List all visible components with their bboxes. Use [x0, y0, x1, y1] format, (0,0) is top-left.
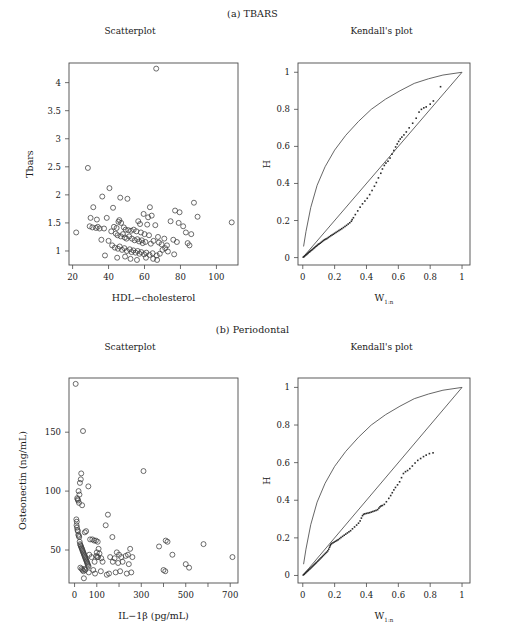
y-axis-title: H	[261, 476, 272, 484]
data-point	[126, 562, 131, 567]
data-point	[115, 255, 120, 260]
y-tick-label: 1	[285, 382, 290, 392]
data-point	[329, 546, 331, 548]
y-tick-label: 2.5	[47, 162, 61, 172]
x-axis-title: HDL−cholesterol	[112, 292, 196, 303]
data-point	[107, 186, 112, 191]
y-tick-label: 0	[285, 253, 290, 263]
plot-frame	[69, 63, 238, 265]
x-tick-label: 0.6	[392, 590, 406, 600]
x-axis-title: W1:n	[375, 610, 394, 623]
data-point	[130, 555, 135, 560]
reference-diagonal	[303, 72, 462, 257]
periodontal-scatter-svg: 010030050070050100150IL−1β (pg/mL)Osteon…	[0, 320, 260, 636]
data-point	[74, 230, 79, 235]
data-point	[407, 470, 409, 472]
y-axis-title: Tbars	[24, 150, 35, 178]
data-point	[423, 107, 425, 109]
x-tick-label: 500	[178, 590, 194, 600]
data-point	[378, 177, 380, 179]
data-point	[429, 453, 431, 455]
data-point	[401, 136, 403, 138]
data-point	[201, 542, 206, 547]
x-tick-label: 60	[139, 272, 150, 282]
data-point	[423, 456, 425, 458]
data-point	[361, 517, 363, 519]
data-point	[412, 465, 414, 467]
data-point	[399, 481, 401, 483]
reference-diagonal	[303, 387, 462, 575]
data-point	[165, 249, 170, 254]
data-point	[343, 534, 345, 536]
data-point	[141, 211, 146, 216]
data-point	[369, 512, 371, 514]
y-tick-label: 1.5	[47, 218, 61, 228]
data-point	[355, 214, 357, 216]
x-tick-label: 100	[89, 590, 105, 600]
data-point	[153, 223, 158, 228]
data-point	[79, 471, 84, 476]
data-point	[408, 127, 410, 129]
x-tick-label: 0.8	[423, 590, 437, 600]
data-point	[386, 501, 388, 503]
data-point	[168, 219, 173, 224]
x-tick-label: 0	[72, 590, 77, 600]
data-point	[162, 236, 167, 241]
data-point	[382, 168, 384, 170]
data-point	[349, 222, 351, 224]
data-point	[123, 254, 128, 259]
data-point	[390, 495, 392, 497]
data-point	[414, 462, 416, 464]
data-point	[78, 477, 83, 482]
x-tick-label: 0.4	[360, 590, 374, 600]
data-point	[351, 220, 353, 222]
x-tick-label: 700	[222, 590, 238, 600]
data-point	[396, 143, 398, 145]
reference-independence-curve-K0	[304, 387, 462, 564]
data-point	[128, 256, 133, 261]
data-point	[340, 537, 342, 539]
data-point	[409, 468, 411, 470]
data-point	[351, 219, 353, 221]
x-tick-label: 0.2	[328, 272, 342, 282]
x-tick-label: 0.6	[392, 272, 406, 282]
data-point	[362, 203, 364, 205]
data-point	[337, 539, 339, 541]
y-axis-title: Osteonectin (ng/mL)	[17, 431, 28, 530]
x-tick-label: 80	[175, 272, 186, 282]
data-point	[128, 546, 133, 551]
data-point	[111, 205, 116, 210]
data-point	[328, 548, 330, 550]
data-point	[334, 233, 336, 235]
y-tick-label: 1	[56, 246, 61, 256]
data-point	[118, 195, 123, 200]
data-point	[340, 229, 342, 231]
data-point	[364, 513, 366, 515]
data-point	[347, 223, 349, 225]
data-point	[229, 220, 234, 225]
data-point	[174, 239, 179, 244]
data-point	[85, 165, 90, 170]
x-axis-title: IL−1β (pg/mL)	[118, 610, 189, 621]
data-point	[155, 234, 160, 239]
data-point	[389, 157, 391, 159]
data-point	[343, 227, 345, 229]
data-point	[425, 106, 427, 108]
data-point	[129, 570, 134, 575]
data-point	[359, 206, 361, 208]
data-point	[406, 131, 408, 133]
subplot-tbars-scatter: Scatterplot 2040608010011.522.533.54HDL−…	[0, 0, 260, 316]
data-point	[187, 565, 192, 570]
x-tick-label: 20	[67, 272, 78, 282]
data-point	[385, 162, 387, 164]
data-point	[189, 232, 194, 237]
tbars-kendall-svg: 00.20.40.60.8100.20.40.60.81W1:nH	[258, 0, 505, 316]
subplot-periodontal-kendall: Kendall's plot 00.20.40.60.8100.20.40.60…	[258, 320, 505, 636]
data-point	[366, 197, 368, 199]
data-point	[412, 122, 414, 124]
data-point	[342, 536, 344, 538]
data-point	[84, 529, 89, 534]
reference-independence-curve-K0	[304, 72, 462, 246]
data-point	[429, 103, 431, 105]
x-tick-label: 0	[300, 272, 305, 282]
